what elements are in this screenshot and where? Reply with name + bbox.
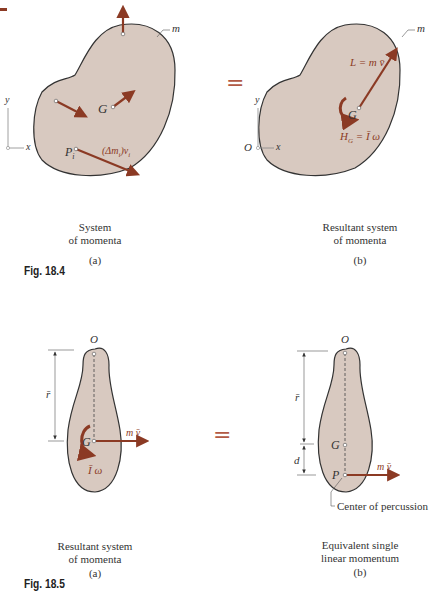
fig-18-4b-caption: Resultant systemof momenta xyxy=(300,221,420,247)
angular-momentum-label: HG = Ī ω xyxy=(340,130,380,145)
x-axis-label: x xyxy=(276,141,280,152)
fig-18-5b-sub: (b) xyxy=(300,566,420,579)
fig-18-4-label: Fig. 18.4 xyxy=(24,264,65,278)
fig-18-4a-caption: Systemof momenta xyxy=(40,221,150,247)
center-of-mass-label: G xyxy=(82,435,91,450)
fig-18-4b-sub: (b) xyxy=(300,254,420,267)
rigid-body-shape xyxy=(259,24,400,176)
percussion-point-label: P xyxy=(332,468,339,483)
equals-sign: = xyxy=(226,70,244,95)
pivot-label: O xyxy=(90,333,98,345)
linear-momentum-label: m v̄ xyxy=(126,427,140,438)
linear-momentum-label: m v̄ xyxy=(377,461,391,472)
fig-18-5b-diagram xyxy=(297,348,397,506)
d-dimension-label: d xyxy=(294,454,300,466)
particle-label: Pi xyxy=(65,145,75,161)
center-of-mass-label: G xyxy=(331,438,340,453)
origin-label: O xyxy=(244,141,252,153)
decorative-bar xyxy=(0,8,7,11)
fig-18-4a-diagram xyxy=(6,8,175,176)
fig-18-5-label: Fig. 18.5 xyxy=(24,577,65,591)
x-axis-label: x xyxy=(26,141,30,152)
momentum-label: (Δmi)vi xyxy=(102,145,130,159)
pivot-label: O xyxy=(341,333,349,345)
equals-sign: = xyxy=(213,422,231,447)
center-of-mass-label: G xyxy=(348,108,357,123)
rbar-dimension-label: r̄ xyxy=(46,388,50,400)
y-axis-label: y xyxy=(255,94,259,105)
fig-18-4b-diagram xyxy=(256,24,415,176)
linear-momentum-label: L = m v̄ xyxy=(350,56,384,68)
angular-momentum-label: Ī ω xyxy=(88,464,102,476)
mass-label: m xyxy=(172,22,180,34)
fig-18-5b-caption: Equivalent singlelinear momentum xyxy=(300,539,420,565)
center-of-mass-label: G xyxy=(98,101,107,117)
fig-18-5a-caption: Resultant systemof momenta xyxy=(40,540,150,566)
rbar-dimension-label: r̄ xyxy=(295,391,299,403)
y-axis-label: y xyxy=(5,94,9,105)
mass-label: m xyxy=(417,22,425,34)
center-of-percussion-label: Center of percussion xyxy=(337,500,428,512)
